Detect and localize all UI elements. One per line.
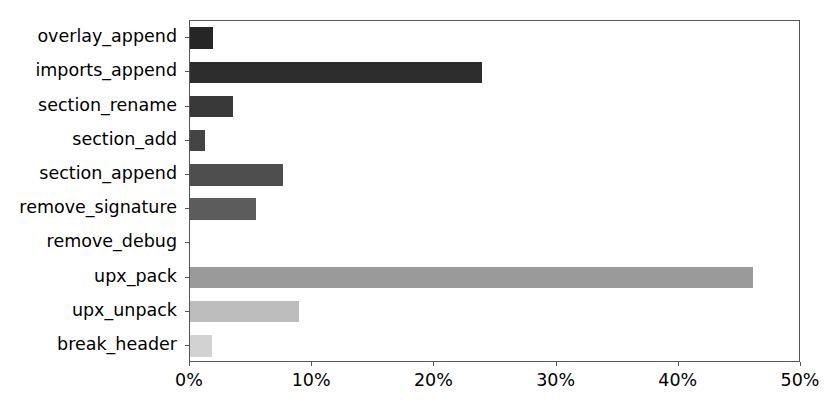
bar-row — [190, 267, 799, 289]
y-axis: overlay_appendimports_appendsection_rena… — [0, 20, 185, 362]
plot-area — [189, 20, 800, 362]
bar-section-append — [190, 164, 283, 186]
y-axis-label-section-rename: section_rename — [38, 97, 177, 115]
y-axis-label-section-append: section_append — [39, 165, 177, 183]
bar-row — [190, 198, 799, 220]
x-axis-tick — [800, 362, 801, 366]
x-axis-label-10pct: 10% — [292, 370, 331, 390]
y-axis-label-remove-debug: remove_debug — [47, 234, 177, 252]
y-axis-label-section-add: section_add — [72, 131, 177, 149]
bar-upx-pack — [190, 267, 753, 289]
x-axis-label-0pct: 0% — [175, 370, 203, 390]
x-axis-tick — [433, 362, 434, 366]
y-axis-label-overlay-append: overlay_append — [37, 28, 177, 46]
bar-upx-unpack — [190, 301, 299, 323]
x-axis-tick — [311, 362, 312, 366]
x-axis-label-20pct: 20% — [414, 370, 453, 390]
bars-layer — [190, 21, 799, 361]
bar-section-add — [190, 130, 205, 152]
bar-row — [190, 164, 799, 186]
bar-row — [190, 301, 799, 323]
x-axis-tick — [189, 362, 190, 366]
y-axis-label-break-header: break_header — [57, 336, 177, 354]
bar-chart-figure: overlay_appendimports_appendsection_rena… — [0, 0, 838, 408]
y-axis-label-upx-unpack: upx_unpack — [72, 302, 177, 320]
bar-row — [190, 96, 799, 118]
y-axis-label-upx-pack: upx_pack — [94, 268, 177, 286]
x-axis-tick — [678, 362, 679, 366]
bar-row — [190, 335, 799, 357]
bar-row — [190, 233, 799, 255]
bar-row — [190, 27, 799, 49]
x-axis-label-40pct: 40% — [658, 370, 697, 390]
bar-break-header — [190, 335, 212, 357]
bar-remove-signature — [190, 198, 256, 220]
bar-imports-append — [190, 62, 482, 84]
x-axis: 0%10%20%30%40%50% — [189, 362, 800, 402]
y-axis-label-imports-append: imports_append — [35, 63, 177, 81]
bar-row — [190, 62, 799, 84]
y-axis-label-remove-signature: remove_signature — [19, 199, 177, 217]
x-axis-tick — [556, 362, 557, 366]
bar-section-rename — [190, 96, 233, 118]
x-axis-label-50pct: 50% — [781, 370, 820, 390]
bar-row — [190, 130, 799, 152]
bar-overlay-append — [190, 27, 213, 49]
x-axis-label-30pct: 30% — [536, 370, 575, 390]
